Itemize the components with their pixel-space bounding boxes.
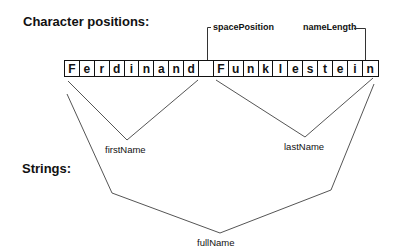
- bracket-lines: [0, 0, 396, 252]
- last-name-label: lastName: [284, 141, 324, 152]
- full-name-label: fullName: [197, 237, 235, 248]
- first-name-label: firstName: [105, 144, 146, 155]
- strings-heading: Strings:: [22, 161, 71, 176]
